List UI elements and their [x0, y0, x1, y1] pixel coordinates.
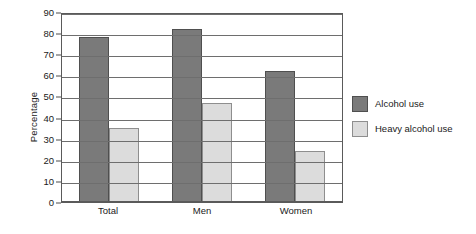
legend-label: Heavy alcohol use — [375, 124, 453, 134]
y-axis-tick-label: 10 — [43, 177, 54, 187]
bar — [172, 29, 202, 202]
x-axis-tick-label: Men — [155, 206, 249, 216]
y-axis-tick-mark — [56, 13, 61, 14]
gridline — [62, 162, 342, 163]
y-axis-tick-label: 40 — [43, 114, 54, 124]
x-axis-baseline — [62, 201, 342, 202]
gridline — [62, 56, 342, 57]
gridline — [62, 14, 342, 15]
y-axis-tick-mark — [56, 160, 61, 161]
y-axis-tick-labels: 0102030405060708090 — [30, 13, 54, 203]
chart-legend: Alcohol useHeavy alcohol use — [352, 96, 453, 137]
y-axis-tick-label: 60 — [43, 72, 54, 82]
gridline — [62, 141, 342, 142]
bars-layer — [62, 14, 342, 202]
y-axis-tick-mark — [56, 118, 61, 119]
gridline — [62, 77, 342, 78]
bar-group — [155, 14, 248, 202]
bar — [109, 128, 139, 202]
y-axis-tick-mark — [56, 55, 61, 56]
legend-item[interactable]: Alcohol use — [352, 96, 453, 112]
bar — [295, 151, 325, 202]
legend-swatch-icon — [352, 96, 368, 112]
gridline — [62, 120, 342, 121]
y-axis-tick-label: 30 — [43, 135, 54, 145]
bar-group — [249, 14, 342, 202]
gridline — [62, 35, 342, 36]
legend-swatch-icon — [352, 121, 368, 137]
plot-area — [61, 13, 343, 203]
y-axis-tick-mark — [56, 34, 61, 35]
bar-chart: Percentage 0102030405060708090 TotalMenW… — [0, 0, 476, 234]
x-axis-tick-label: Women — [249, 206, 343, 216]
y-axis-tick-label: 20 — [43, 156, 54, 166]
y-axis-tick-mark — [56, 76, 61, 77]
y-axis-tick-mark — [56, 97, 61, 98]
gridline — [62, 98, 342, 99]
y-axis-tick-label: 70 — [43, 50, 54, 60]
y-axis-tick-mark — [56, 139, 61, 140]
y-axis-tick-mark — [56, 181, 61, 182]
x-axis-tick-labels: TotalMenWomen — [61, 206, 343, 216]
bar — [202, 103, 232, 202]
y-axis-tick-label: 90 — [43, 8, 54, 18]
gridline — [62, 183, 342, 184]
y-axis-tick-label: 80 — [43, 29, 54, 39]
y-axis-tick-mark — [56, 203, 61, 204]
x-axis-tick-label: Total — [61, 206, 155, 216]
bar-group — [62, 14, 155, 202]
y-axis-tick-label: 0 — [49, 198, 54, 208]
y-axis-tick-label: 50 — [43, 93, 54, 103]
legend-label: Alcohol use — [375, 99, 424, 109]
legend-item[interactable]: Heavy alcohol use — [352, 121, 453, 137]
